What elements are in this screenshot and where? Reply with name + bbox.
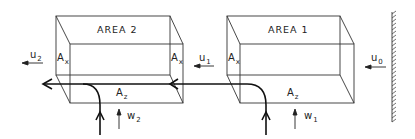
ax-symbol: A xyxy=(57,52,64,63)
u0-subscript: 0 xyxy=(378,58,382,66)
u1-label: u1 xyxy=(199,53,211,63)
ax-symbol: A xyxy=(171,52,178,63)
u0-symbol: u xyxy=(371,52,377,63)
w2-label: w2 xyxy=(127,111,141,121)
area2-ax-right-label: Ax xyxy=(171,53,183,63)
area1-ax-left-label: Ax xyxy=(228,53,240,63)
w2-symbol: w xyxy=(127,110,135,121)
area1-az-label: Az xyxy=(287,88,299,98)
az-subscript: z xyxy=(124,93,128,101)
u1-subscript: 1 xyxy=(206,58,210,66)
ax-subscript: x xyxy=(179,58,183,66)
hatched-wall xyxy=(392,11,396,122)
area1-title: AREA 1 xyxy=(268,25,309,35)
az-symbol: A xyxy=(116,87,123,98)
w1-symbol: w xyxy=(304,110,312,121)
main-flow-line xyxy=(43,79,247,89)
w2-subscript: 2 xyxy=(136,116,140,124)
w1-arrow xyxy=(293,109,297,129)
u1-symbol: u xyxy=(199,52,205,63)
inflow-curve-area1 xyxy=(247,84,270,135)
u1-arrow xyxy=(194,64,214,68)
ax-subscript: x xyxy=(236,58,240,66)
az-subscript: z xyxy=(295,93,299,101)
w2-arrow xyxy=(117,109,121,129)
az-symbol: A xyxy=(287,87,294,98)
area2-title: AREA 2 xyxy=(97,25,138,35)
ax-subscript: x xyxy=(65,58,69,66)
w1-label: w1 xyxy=(304,111,318,121)
area2-ax-left-label: Ax xyxy=(57,53,69,63)
u2-subscript: 2 xyxy=(37,55,41,63)
area2-az-label: Az xyxy=(116,88,128,98)
u2-label: u2 xyxy=(30,50,42,60)
diagram-canvas xyxy=(0,0,415,139)
u2-symbol: u xyxy=(30,49,36,60)
inflow-curve-area2 xyxy=(83,84,104,135)
ax-symbol: A xyxy=(228,52,235,63)
w1-subscript: 1 xyxy=(313,116,317,124)
u0-label: u0 xyxy=(371,53,383,63)
